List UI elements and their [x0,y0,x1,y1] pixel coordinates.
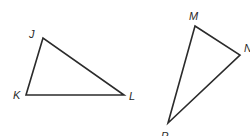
vertex-label-m: M [189,10,199,22]
vertex-label-j: J [28,28,35,40]
vertex-label-k: K [13,89,21,101]
vertex-label-n: N [244,42,250,54]
triangle-jkl [26,38,124,95]
vertex-label-l: L [129,90,135,102]
vertex-label-p: P [161,130,169,136]
triangle-mnp [168,26,240,123]
triangle-diagram: J K L M N P [0,0,250,136]
